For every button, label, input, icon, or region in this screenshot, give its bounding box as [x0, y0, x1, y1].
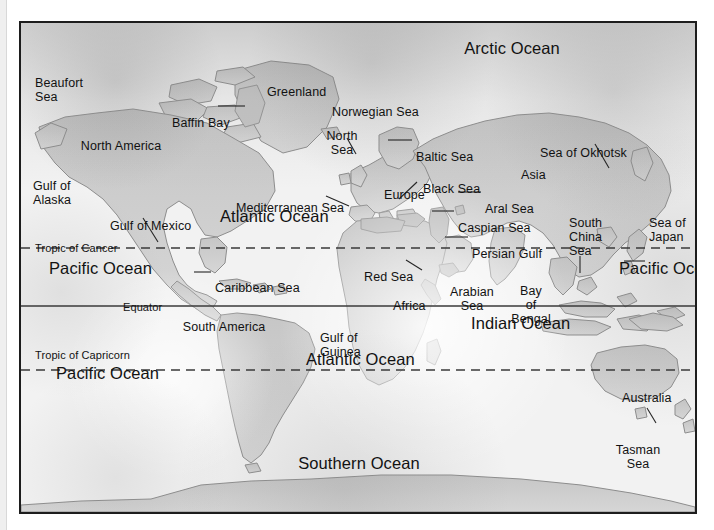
sea-label-north-sea: North Sea — [326, 129, 357, 157]
sea-label-baltic-sea: Baltic Sea — [416, 150, 473, 164]
south-china-sea-text: South China Sea — [569, 216, 602, 258]
arabian-sea-text: Arabian Sea — [450, 285, 494, 313]
continent-label-south-america: South America — [183, 320, 266, 334]
gulf-of-guinea-text: Gulf of Guinea — [320, 331, 361, 359]
page-gutter — [0, 0, 7, 530]
sea-label-sea-of-okhotsk: Sea of Okhotsk — [540, 146, 627, 160]
ocean-label-pacific-south-west: Pacific Ocean — [56, 364, 159, 383]
sea-label-gulf-of-mexico: Gulf of Mexico — [110, 219, 191, 233]
sea-label-south-china-sea: South China Sea — [569, 216, 602, 258]
north-america-text: North America — [81, 139, 162, 153]
sea-label-aral-sea: Aral Sea — [485, 202, 534, 216]
sea-label-gulf-of-alaska: Gulf of Alaska — [33, 179, 71, 207]
continent-label-asia: Asia — [521, 168, 546, 182]
sea-label-caribbean-sea: Caribbean Sea — [215, 281, 300, 295]
sea-of-japan-text: Sea of Japan — [649, 216, 686, 244]
continent-label-antarctica: Antarctica — [424, 511, 481, 514]
ocean-label-arctic-ocean: Arctic Ocean — [464, 39, 560, 58]
continent-label-africa: Africa — [393, 299, 426, 313]
pacific-nw-text: Pacific Ocean — [49, 259, 152, 277]
sea-label-baffin-bay: Baffin Bay — [172, 116, 230, 130]
leader-red-sea — [406, 260, 422, 270]
beaufort-sea-text: Beaufort Sea — [35, 76, 83, 104]
pacific-east-text: Pacific Ocean — [619, 259, 697, 277]
ocean-label-pacific-north-west: Pacific Ocean — [49, 259, 152, 278]
sea-label-sea-of-japan: Sea of Japan — [649, 216, 686, 244]
ocean-label-southern-ocean: Southern Ocean — [298, 454, 420, 473]
sea-label-gulf-of-guinea: Gulf of Guinea — [320, 331, 361, 359]
sea-label-beaufort-sea: Beaufort Sea — [35, 76, 83, 104]
continent-label-north-america: North America — [81, 139, 162, 153]
ocean-label-pacific-east: Pacific Ocean — [619, 259, 697, 278]
pacific-sw-text: Pacific Ocean — [56, 364, 159, 382]
north-sea-text: North Sea — [326, 129, 357, 157]
sea-label-arabian-sea: Arabian Sea — [450, 285, 494, 313]
map-page: Arctic Ocean Atlantic Ocean Atlantic Oce… — [0, 0, 714, 530]
tasman-sea-text: Tasman Sea — [616, 443, 660, 471]
reference-label-tropic-of-cancer: Tropic of Cancer — [35, 242, 118, 254]
reference-label-equator: Equator — [123, 301, 162, 313]
leader-tasman-sea — [647, 408, 656, 423]
bay-of-bengal-text: Bay of Bengal — [511, 284, 551, 326]
sea-label-mediterranean-sea: Mediterranean Sea — [236, 201, 344, 215]
sea-label-bay-of-bengal: Bay of Bengal — [511, 284, 551, 326]
continent-label-greenland: Greenland — [267, 85, 326, 99]
gulf-of-alaska-text: Gulf of Alaska — [33, 179, 71, 207]
sea-label-persian-gulf: Persian Gulf — [472, 247, 542, 261]
sea-label-caspian-sea: Caspian Sea — [458, 221, 531, 235]
sea-label-norwegian-sea: Norwegian Sea — [332, 105, 419, 119]
sea-label-red-sea: Red Sea — [364, 270, 413, 284]
world-map-frame: Arctic Ocean Atlantic Ocean Atlantic Oce… — [19, 21, 697, 514]
continent-label-europe: Europe — [384, 188, 425, 202]
sea-label-black-sea: Black Sea — [423, 182, 480, 196]
south-america-text: South America — [183, 320, 266, 334]
continent-label-australia: Australia — [622, 391, 672, 405]
sea-label-tasman-sea: Tasman Sea — [616, 443, 660, 471]
reference-label-tropic-of-capricorn: Tropic of Capricorn — [35, 349, 130, 361]
